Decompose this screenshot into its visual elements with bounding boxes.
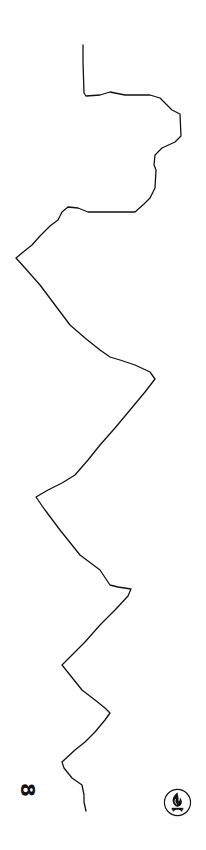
page-number: 8 [16, 778, 40, 802]
boundary-line [16, 45, 181, 811]
boundary-map [0, 0, 206, 850]
flame-emblem-icon [163, 788, 192, 817]
